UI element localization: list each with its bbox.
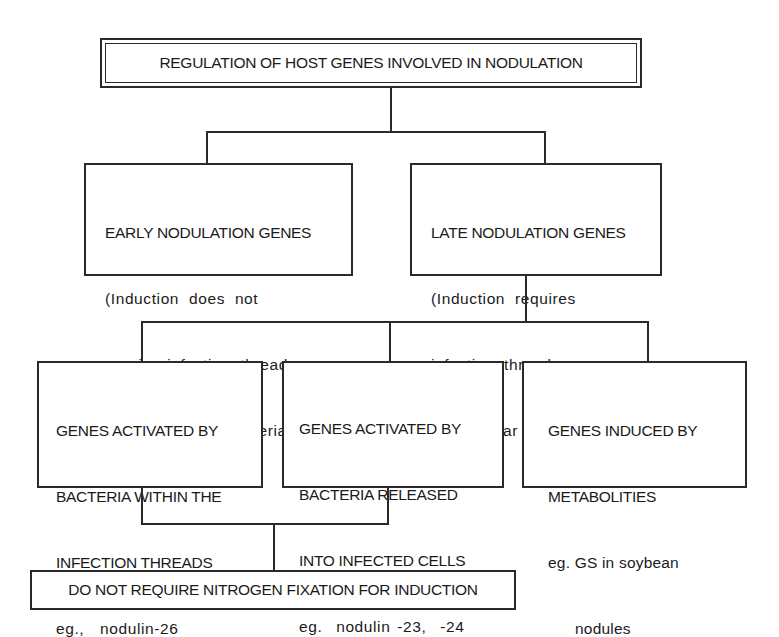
title-text: REGULATION OF HOST GENES INVOLVED IN NOD…: [159, 54, 582, 72]
example-text: eg. nodulin -23, -24: [299, 616, 502, 637]
late-line: (Induction requires: [431, 288, 660, 310]
early-heading: EARLY NODULATION GENES: [105, 222, 351, 244]
box-line: METABOLITIES: [548, 486, 745, 508]
box-line: GENES ACTIVATED BY: [299, 418, 502, 440]
connector: [387, 487, 389, 525]
box-line: INTO INFECTED CELLS: [299, 550, 502, 572]
connector: [141, 321, 649, 323]
no-nitrogen-fixation-box: DO NOT REQUIRE NITROGEN FIXATION FOR IND…: [30, 570, 516, 610]
early-line: (Induction does not: [105, 288, 351, 310]
connector: [525, 276, 527, 322]
connector: [141, 523, 389, 525]
box-line: GENES INDUCED BY: [548, 420, 745, 442]
final-text: DO NOT REQUIRE NITROGEN FIXATION FOR IND…: [68, 581, 477, 599]
genes-induced-by-metabolites-box: GENES INDUCED BY METABOLITIES eg. GS in …: [522, 361, 747, 488]
box-line: BACTERIA RELEASED: [299, 484, 502, 506]
connector: [141, 321, 143, 362]
connector: [141, 487, 143, 525]
box-line: BACTERIA WITHIN THE: [56, 486, 261, 508]
title-inner-border: REGULATION OF HOST GENES INVOLVED IN NOD…: [105, 43, 637, 83]
connector: [273, 523, 275, 571]
example-text: nodules: [548, 618, 745, 637]
example-text: eg., nodulin-26: [56, 618, 261, 637]
connector: [389, 321, 391, 362]
example-text: eg. GS in soybean: [548, 552, 745, 574]
connector: [206, 131, 546, 133]
genes-within-infection-threads-box: GENES ACTIVATED BY BACTERIA WITHIN THE I…: [37, 361, 263, 488]
early-nodulation-genes-box: EARLY NODULATION GENES (Induction does n…: [84, 163, 353, 276]
genes-released-into-cells-box: GENES ACTIVATED BY BACTERIA RELEASED INT…: [282, 361, 504, 488]
title-box: REGULATION OF HOST GENES INVOLVED IN NOD…: [100, 38, 642, 88]
connector: [647, 321, 649, 362]
box-line: GENES ACTIVATED BY: [56, 420, 261, 442]
connector: [390, 88, 392, 132]
connector: [544, 131, 546, 164]
late-nodulation-genes-box: LATE NODULATION GENES (Induction require…: [410, 163, 662, 276]
late-heading: LATE NODULATION GENES: [431, 222, 660, 244]
connector: [206, 131, 208, 164]
